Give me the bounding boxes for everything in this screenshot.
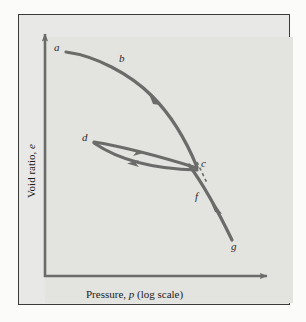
y-axis-title-symbol: e	[25, 144, 37, 149]
y-axis-title-prefix: Void ratio,	[25, 149, 37, 198]
curve-loop-lower-branch	[94, 143, 197, 170]
point-label-g: g	[231, 241, 237, 252]
figure-consolidation-curve: a b c d f g Void ratio, e Pressure, p (l…	[0, 0, 306, 322]
x-axis-title-prefix: Pressure,	[86, 288, 129, 300]
point-label-a: a	[54, 42, 60, 53]
x-axis-title-suffix: (log scale)	[134, 288, 183, 300]
point-label-d: d	[82, 132, 88, 143]
point-label-c: c	[201, 158, 206, 169]
y-axis-title: Void ratio, e	[25, 116, 37, 226]
curve-continued-compression-cfg	[189, 165, 232, 240]
point-label-f: f	[195, 191, 198, 202]
plot-canvas	[0, 0, 306, 322]
x-axis-title: Pressure, p (log scale)	[86, 288, 183, 300]
point-label-b: b	[119, 53, 125, 64]
